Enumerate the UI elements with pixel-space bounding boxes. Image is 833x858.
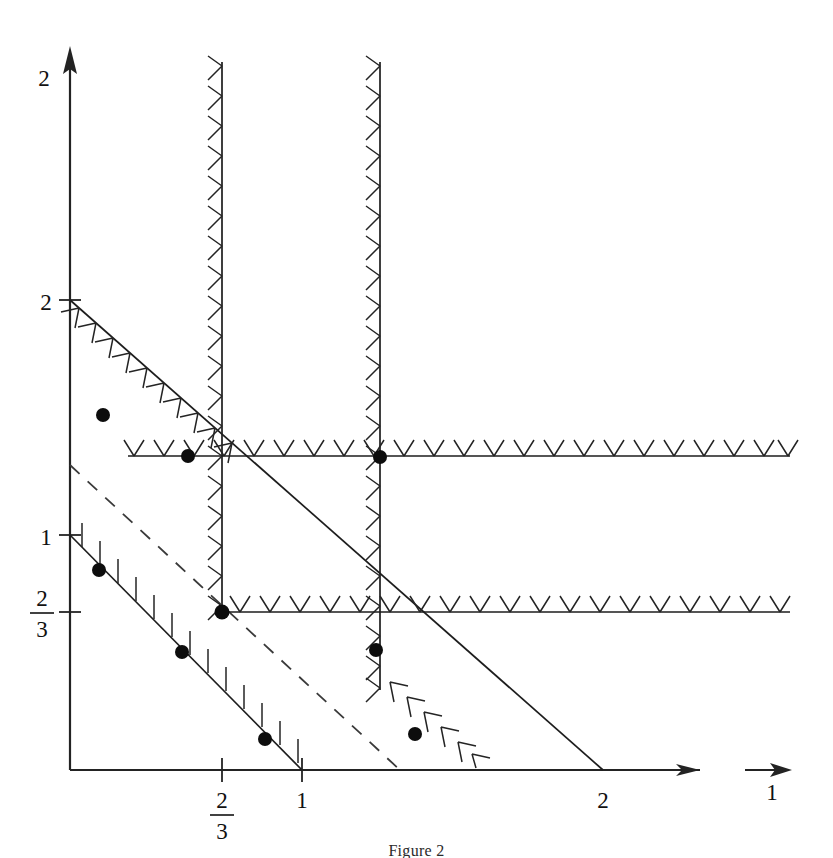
hatch-horizontal-a [124, 440, 798, 456]
data-point [92, 563, 106, 577]
hatch-vertical-a [208, 56, 222, 620]
hatch-lower-solid [82, 523, 298, 763]
figure-caption: Figure 2 [0, 840, 833, 858]
x-frac-numerator: 2 [216, 788, 228, 813]
hatch-vertical-b [366, 56, 380, 702]
hatch-upper-solid-lower [390, 682, 490, 768]
data-point [96, 408, 110, 422]
x-axis-label: 1 [766, 780, 778, 805]
constraint-upper-solid [70, 300, 603, 770]
data-point [258, 732, 272, 746]
constraint-dashed [70, 465, 400, 770]
y-axis-top-label: 2 [38, 66, 50, 91]
data-point [408, 727, 422, 741]
figure-caption-container: Figure 2 [0, 840, 833, 858]
y-tick-label-2: 2 [40, 290, 52, 315]
x-tick-label-2: 2 [597, 788, 609, 813]
feasible-region-plot: 2 2 1 2 3 2 3 1 2 1 [0, 0, 833, 858]
axes-group [63, 46, 792, 777]
hatch-horizontal-b [230, 596, 790, 612]
data-point-vertex [215, 605, 230, 620]
y-tick-label-two-thirds: 2 3 [30, 586, 54, 642]
figure-root: 2 2 1 2 3 2 3 1 2 1 [0, 0, 833, 858]
data-point [175, 645, 189, 659]
tick-group [59, 300, 302, 782]
data-point [373, 450, 387, 464]
y-tick-label-1: 1 [40, 525, 52, 550]
y-frac-numerator: 2 [36, 586, 48, 611]
data-point [181, 449, 195, 463]
y-frac-denominator: 3 [36, 617, 48, 642]
x-tick-label-1: 1 [296, 788, 308, 813]
x-tick-label-two-thirds: 2 3 [210, 788, 234, 844]
data-point [369, 643, 383, 657]
hatch-upper-solid [61, 308, 232, 463]
